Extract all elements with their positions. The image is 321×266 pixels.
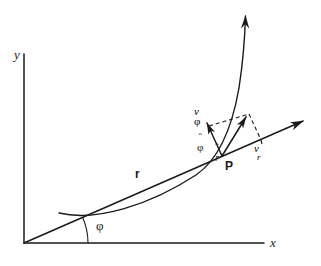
diagram-canvas <box>0 0 321 266</box>
velocity-phi-subscript: φ <box>194 116 200 126</box>
dashed-component-v-r <box>249 114 261 140</box>
polar-velocity-diagram: y x φ r P ˆ r ˆ φ v φ v r <box>0 0 321 266</box>
trajectory-curve <box>59 16 246 215</box>
velocity-phi-label: v φ <box>194 106 200 127</box>
x-axis-label: x <box>270 236 276 249</box>
y-axis-label: y <box>14 48 20 61</box>
unit-vector-phi-hat-label: ˆ φ <box>197 138 203 154</box>
position-vector-label: r <box>135 168 140 180</box>
r-axis-tick <box>261 140 262 144</box>
velocity-r-label: v r <box>254 143 261 162</box>
r-hat-caret: ˆ <box>215 142 219 153</box>
angle-phi-arc <box>83 218 88 244</box>
phi-hat-caret: ˆ <box>198 132 202 143</box>
unit-vector-r-hat-label: ˆ r <box>215 148 219 164</box>
velocity-r-subscript: r <box>257 153 261 162</box>
angle-phi-label: φ <box>96 219 104 232</box>
dashed-component-v-phi <box>209 114 249 126</box>
point-P-label: P <box>225 160 233 172</box>
